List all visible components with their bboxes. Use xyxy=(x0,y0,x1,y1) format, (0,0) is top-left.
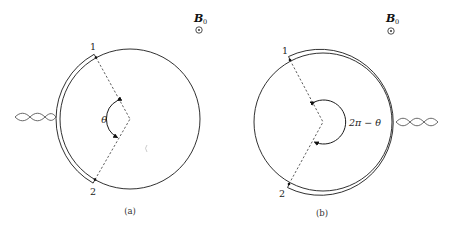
contact-point-2-b xyxy=(288,183,291,186)
radius-line-1-b xyxy=(290,60,323,122)
caption-a: (a) xyxy=(124,206,136,216)
contact-point-1-b xyxy=(289,59,292,62)
sample-disc-a xyxy=(60,49,200,189)
point-label-2-b: 2 xyxy=(279,188,285,199)
field-subscript-b: 0 xyxy=(395,18,399,26)
angle-label-b: 2π − θ xyxy=(348,117,381,128)
angle-label-a: θ xyxy=(101,114,107,125)
contact-point-1-a xyxy=(95,56,98,59)
twisted-pair-lead-a xyxy=(15,113,56,121)
stray-mark xyxy=(146,145,148,152)
magnetic-field-indicator-a: B 0 xyxy=(193,12,207,33)
point-label-1-b: 1 xyxy=(282,45,288,56)
field-subscript-a: 0 xyxy=(203,18,207,26)
panel-b: 1 2 2π − θ B 0 (b) xyxy=(254,12,438,218)
radius-line-2-a xyxy=(95,119,130,180)
diagram-canvas: 1 2 θ B 0 (a) xyxy=(0,0,450,231)
point-label-2-a: 2 xyxy=(90,186,96,197)
angle-arc-b xyxy=(315,100,346,144)
twisted-pair-lead-b xyxy=(396,118,438,126)
caption-b: (b) xyxy=(316,208,328,218)
contact-point-2-a xyxy=(94,178,97,181)
panel-a: 1 2 θ B 0 (a) xyxy=(15,12,207,216)
angle-arc-a xyxy=(106,101,117,138)
magnetic-field-indicator-b: B 0 xyxy=(385,12,399,34)
point-label-1-a: 1 xyxy=(90,41,96,52)
field-label-a: B xyxy=(193,12,203,25)
radius-line-2-b xyxy=(289,122,323,184)
radius-line-1-a xyxy=(96,58,130,120)
field-label-b: B xyxy=(385,12,395,25)
